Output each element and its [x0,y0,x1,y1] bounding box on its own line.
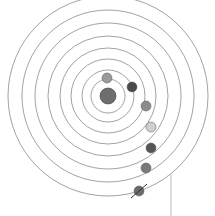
moon-icon [102,73,112,83]
venus-icon [141,101,151,111]
saturn-icon [131,184,147,198]
mercury-icon [127,82,137,92]
earth-icon [100,88,116,104]
jupiter-icon [141,163,151,173]
sun-icon [146,122,156,132]
mars-icon [146,143,156,153]
solar-system-illustration [0,0,215,216]
